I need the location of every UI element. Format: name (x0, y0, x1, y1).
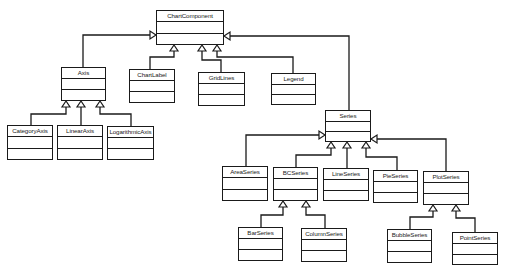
class-operations-compartment (58, 149, 102, 160)
class-box-areaseries: AreaSeries (222, 166, 268, 201)
class-box-pointseries: PointSeries (452, 232, 498, 265)
inheritance-arrowhead-icon (62, 101, 70, 107)
inheritance-arrowhead-icon (96, 101, 104, 107)
class-name: GridLines (199, 73, 244, 84)
class-box-axis: Axis (61, 67, 106, 101)
class-box-linearaxis: LinearAxis (57, 125, 103, 160)
class-box-barseries: BarSeries (238, 227, 283, 261)
class-box-columnseries: ColumnSeries (301, 228, 347, 262)
class-operations-compartment (239, 250, 282, 260)
class-box-series: Series (325, 110, 371, 142)
class-name: AreaSeries (223, 167, 267, 178)
class-attributes-compartment (453, 244, 497, 255)
class-name: LineSeries (324, 169, 368, 180)
class-attributes-compartment (62, 79, 105, 90)
class-attributes-compartment (223, 178, 267, 190)
class-operations-compartment (272, 95, 315, 104)
generalization-line-bubbleseries (410, 209, 433, 229)
class-operations-compartment (424, 194, 468, 204)
class-attributes-compartment (108, 138, 153, 149)
class-operations-compartment (388, 252, 431, 262)
class-name: BubbleSeries (388, 230, 431, 241)
class-name: BarSeries (239, 228, 282, 239)
inheritance-arrowhead-icon (213, 45, 221, 51)
class-box-gridlines: GridLines (198, 72, 245, 106)
class-attributes-compartment (239, 239, 282, 250)
class-name: BCSeries (274, 168, 317, 179)
class-attributes-compartment (324, 180, 368, 191)
class-box-chartlabel: ChartLabel (129, 69, 175, 103)
class-attributes-compartment (199, 84, 244, 95)
class-operations-compartment (374, 193, 417, 203)
class-box-plotseries: PlotSeries (423, 171, 469, 205)
generalization-line-bcseries (296, 146, 331, 167)
class-operations-compartment (157, 34, 223, 45)
class-attributes-compartment (274, 179, 317, 190)
class-name: ColumnSeries (302, 229, 346, 240)
class-operations-compartment (8, 149, 52, 160)
class-name: CategoryAxis (8, 126, 52, 137)
class-name: PointSeries (453, 233, 497, 244)
class-name: LogarithmicAxis (108, 127, 153, 138)
inheritance-arrowhead-icon (343, 142, 351, 148)
class-attributes-compartment (302, 240, 346, 251)
generalization-line-legend (217, 49, 293, 73)
class-operations-compartment (223, 190, 267, 201)
class-name: PlotSeries (424, 172, 468, 183)
class-box-bubbleseries: BubbleSeries (387, 229, 432, 263)
inheritance-arrowhead-icon (327, 142, 335, 148)
generalization-line-pointseries (456, 209, 475, 232)
class-attributes-compartment (388, 241, 431, 252)
generalization-line-chartlabel (150, 49, 174, 69)
inheritance-arrowhead-icon (429, 205, 437, 211)
generalization-line-pieseries (366, 146, 397, 170)
inheritance-arrowhead-icon (77, 101, 85, 107)
class-attributes-compartment (424, 183, 468, 194)
generalization-line-axis (83, 35, 152, 67)
class-operations-compartment (62, 90, 105, 100)
class-operations-compartment (108, 149, 153, 159)
uml-class-diagram: ChartComponent Axis ChartLabel GridLines… (0, 0, 505, 272)
generalization-line-gridlines (202, 49, 221, 72)
class-box-logarithmicaxis: LogarithmicAxis (107, 126, 154, 160)
inheritance-arrowhead-icon (198, 45, 206, 51)
generalization-line-columnseries (306, 205, 325, 228)
inheritance-arrowhead-icon (371, 135, 377, 143)
inheritance-arrowhead-icon (452, 205, 460, 211)
class-operations-compartment (302, 251, 346, 261)
class-box-categoryaxis: CategoryAxis (7, 125, 53, 160)
inheritance-arrowhead-icon (279, 201, 287, 207)
class-name: Series (326, 111, 370, 122)
class-attributes-compartment (8, 137, 52, 149)
class-box-chartcomponent: ChartComponent (156, 10, 224, 45)
inheritance-arrowhead-icon (362, 142, 370, 148)
class-box-bcseries: BCSeries (273, 167, 318, 201)
generalization-line-barseries (261, 205, 283, 227)
class-operations-compartment (274, 190, 317, 200)
class-operations-compartment (453, 255, 497, 265)
inheritance-arrowhead-icon (170, 45, 178, 51)
class-attributes-compartment (130, 81, 174, 92)
class-operations-compartment (130, 92, 174, 102)
inheritance-arrowhead-icon (224, 32, 230, 40)
class-name: ChartLabel (130, 70, 174, 81)
class-box-lineseries: LineSeries (323, 168, 369, 201)
class-name: Axis (62, 68, 105, 79)
class-box-pieseries: PieSeries (373, 170, 418, 203)
generalization-line-logarithmicaxis (100, 105, 131, 126)
class-name: LinearAxis (58, 126, 102, 137)
class-attributes-compartment (326, 122, 370, 132)
class-attributes-compartment (374, 182, 417, 193)
class-box-legend: Legend (271, 73, 316, 105)
generalization-line-categoryaxis (31, 105, 66, 125)
generalization-line-plotseries (375, 139, 446, 171)
class-operations-compartment (324, 191, 368, 201)
inheritance-arrowhead-icon (302, 201, 310, 207)
class-attributes-compartment (58, 137, 102, 149)
class-name: Legend (272, 74, 315, 85)
class-attributes-compartment (272, 85, 315, 95)
class-operations-compartment (199, 95, 244, 105)
class-attributes-compartment (157, 22, 223, 34)
class-name: ChartComponent (157, 11, 223, 22)
class-name: PieSeries (374, 171, 417, 182)
